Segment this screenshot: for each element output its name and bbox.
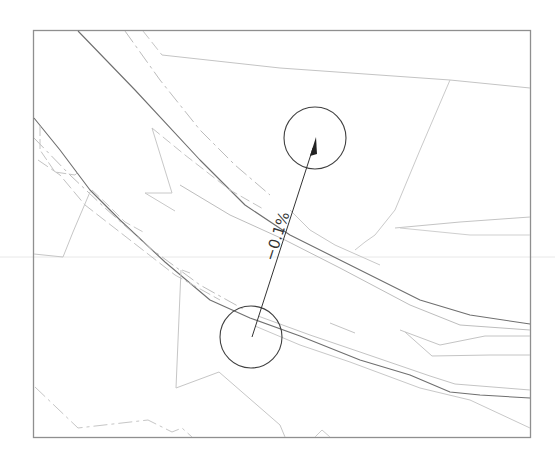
- left-parcel-upper: [34, 192, 90, 257]
- left-dashed-parcel: [92, 190, 145, 233]
- lower-dashed-line-1: [34, 138, 245, 310]
- left-parcel-lower: [176, 270, 285, 437]
- start-point-circle[interactable]: [220, 306, 282, 368]
- bottom-small-tick: [315, 430, 330, 437]
- bottom-left-dashed: [35, 387, 192, 437]
- short-dash-mark: [330, 323, 355, 333]
- parcel-boundary-diagonal: [365, 80, 450, 242]
- lower-road-outer-edge: [255, 326, 530, 428]
- zigzag-parcel: [145, 128, 175, 211]
- end-point-circle[interactable]: [284, 107, 346, 169]
- upper-dashed-line-1: [125, 31, 270, 195]
- parcel-boundary-top: [162, 55, 530, 88]
- parcel-boundary-short: [355, 242, 365, 250]
- parcel-boundary-right-2: [400, 228, 530, 235]
- arrowhead-icon: [310, 137, 317, 156]
- slope-label: −0.1%: [261, 209, 294, 263]
- right-wedge: [400, 330, 530, 345]
- upper-dashed-line-2: [143, 31, 162, 55]
- cad-drawing-canvas: −0.1%: [0, 0, 555, 465]
- slope-annotation: −0.1%: [220, 107, 346, 368]
- parcel-boundary-right: [395, 217, 530, 228]
